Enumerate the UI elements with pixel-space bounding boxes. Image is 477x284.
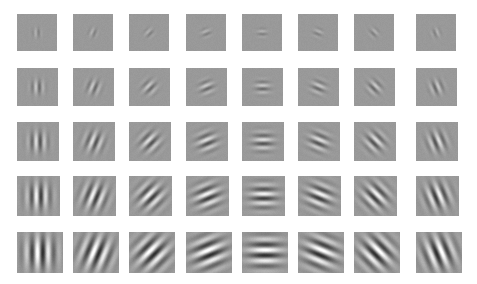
gabor-patch	[354, 14, 394, 51]
gabor-patch	[416, 68, 457, 106]
gabor-patch	[298, 68, 339, 106]
gabor-canvas	[242, 68, 283, 106]
gabor-patch	[354, 122, 396, 161]
gabor-patch	[298, 176, 341, 216]
gabor-patch	[242, 14, 282, 51]
gabor-canvas	[129, 14, 169, 51]
gabor-patch	[73, 14, 113, 51]
gabor-canvas	[416, 14, 456, 51]
gabor-patch	[298, 232, 344, 273]
gabor-canvas	[416, 122, 458, 161]
gabor-patch	[129, 68, 170, 106]
gabor-patch	[129, 176, 172, 216]
gabor-canvas	[186, 176, 229, 216]
gabor-patch	[242, 176, 285, 216]
gabor-canvas	[129, 122, 171, 161]
gabor-canvas	[73, 176, 116, 216]
gabor-patch	[186, 14, 226, 51]
gabor-patch	[354, 68, 395, 106]
gabor-patch	[298, 122, 340, 161]
gabor-patch	[129, 232, 175, 273]
gabor-canvas	[73, 68, 114, 106]
gabor-canvas	[354, 232, 400, 273]
gabor-row	[0, 68, 477, 106]
gabor-canvas	[17, 232, 63, 273]
gabor-canvas	[129, 68, 170, 106]
gabor-stimulus-grid	[0, 0, 477, 284]
gabor-patch	[416, 14, 456, 51]
gabor-canvas	[242, 122, 284, 161]
gabor-canvas	[129, 176, 172, 216]
gabor-patch	[416, 176, 459, 216]
gabor-patch	[73, 176, 116, 216]
gabor-canvas	[298, 176, 341, 216]
gabor-canvas	[17, 14, 57, 51]
gabor-patch	[298, 14, 338, 51]
gabor-patch	[186, 176, 229, 216]
gabor-row	[0, 176, 477, 216]
gabor-canvas	[17, 68, 58, 106]
gabor-patch	[73, 232, 119, 273]
gabor-patch	[17, 176, 60, 216]
gabor-canvas	[17, 122, 59, 161]
gabor-canvas	[416, 176, 459, 216]
gabor-patch	[354, 232, 400, 273]
gabor-canvas	[354, 176, 397, 216]
gabor-canvas	[242, 176, 285, 216]
gabor-patch	[354, 176, 397, 216]
gabor-patch	[186, 122, 228, 161]
gabor-patch	[73, 68, 114, 106]
gabor-patch	[242, 122, 284, 161]
gabor-canvas	[354, 14, 394, 51]
gabor-patch	[416, 122, 458, 161]
gabor-canvas	[186, 232, 232, 273]
gabor-canvas	[73, 122, 115, 161]
gabor-patch	[17, 232, 63, 273]
gabor-patch	[186, 232, 232, 273]
gabor-patch	[129, 14, 169, 51]
gabor-canvas	[416, 68, 457, 106]
gabor-patch	[17, 68, 58, 106]
gabor-canvas	[129, 232, 175, 273]
gabor-canvas	[186, 14, 226, 51]
gabor-patch	[17, 122, 59, 161]
gabor-row	[0, 232, 477, 273]
gabor-patch	[242, 232, 288, 273]
gabor-patch	[17, 14, 57, 51]
gabor-canvas	[242, 232, 288, 273]
gabor-patch	[242, 68, 283, 106]
gabor-canvas	[298, 68, 339, 106]
gabor-canvas	[242, 14, 282, 51]
gabor-canvas	[73, 14, 113, 51]
gabor-canvas	[354, 122, 396, 161]
gabor-canvas	[416, 232, 462, 273]
gabor-row	[0, 14, 477, 51]
gabor-patch	[129, 122, 171, 161]
gabor-row	[0, 122, 477, 161]
gabor-canvas	[298, 122, 340, 161]
gabor-patch	[73, 122, 115, 161]
gabor-canvas	[186, 122, 228, 161]
gabor-canvas	[298, 14, 338, 51]
gabor-patch	[186, 68, 227, 106]
gabor-canvas	[298, 232, 344, 273]
gabor-canvas	[354, 68, 395, 106]
gabor-patch	[416, 232, 462, 273]
gabor-canvas	[73, 232, 119, 273]
gabor-canvas	[186, 68, 227, 106]
gabor-canvas	[17, 176, 60, 216]
